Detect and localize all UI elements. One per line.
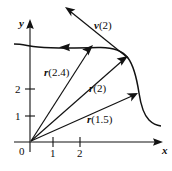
vector-r-1-5-shaft <box>31 96 132 141</box>
vector-label-v-2: v(2) <box>94 20 112 31</box>
vector-v-2-arrowhead-icon <box>65 7 75 17</box>
vector-label-r-1-5-args: (1.5) <box>91 113 112 125</box>
curve-direction-arrowhead-icon <box>59 44 70 52</box>
vector-label-v-2-args: (2) <box>99 19 112 31</box>
vector-v-2 <box>65 7 128 58</box>
x-tick-label-2: 2 <box>77 148 83 159</box>
vector-diagram-figure: y x 0 1 2 1 2 r(2.4) r(2) r(1.5) v(2) <box>0 0 172 171</box>
vector-label-r-2-4: r(2.4) <box>44 67 69 78</box>
x-tick-label-1: 1 <box>50 148 56 159</box>
vector-label-r-2-args: (2) <box>93 82 106 94</box>
y-tick-label-2: 2 <box>15 84 21 95</box>
y-axis-label: y <box>19 18 24 29</box>
origin-label: 0 <box>19 146 25 157</box>
y-tick-label-1: 1 <box>15 111 21 122</box>
vector-r-2-4-arrowhead-icon <box>82 45 93 56</box>
vector-label-r-2: r(2) <box>89 83 106 94</box>
vector-label-r-1-5: r(1.5) <box>87 114 112 125</box>
x-axis-label: x <box>162 145 168 156</box>
vector-label-r-2-4-args: (2.4) <box>48 66 69 78</box>
diagram-canvas <box>0 0 172 171</box>
